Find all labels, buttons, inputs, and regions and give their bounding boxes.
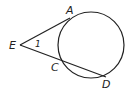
label-d: D (102, 78, 110, 91)
label-a: A (65, 4, 74, 17)
circle (58, 12, 124, 78)
geometry-diagram: A E 1 C D (0, 0, 131, 93)
secant-segment-ed (20, 45, 106, 77)
tangent-segment-ea (20, 18, 70, 45)
label-e: E (9, 39, 16, 52)
label-c: C (51, 61, 59, 74)
label-angle-1: 1 (35, 39, 41, 49)
